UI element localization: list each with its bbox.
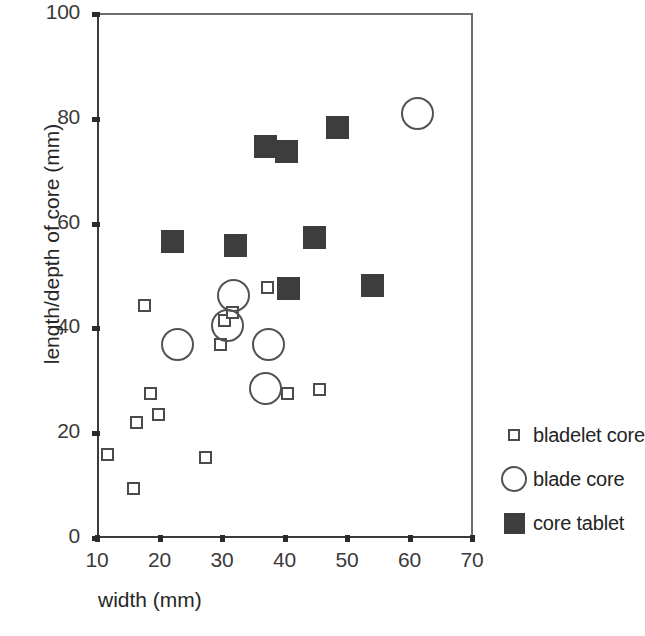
x-tick-label-50: 50 xyxy=(324,548,370,572)
legend-label: core tablet xyxy=(533,512,624,535)
x-tick-label-60: 60 xyxy=(387,548,433,572)
open-square-small-marker xyxy=(101,448,114,461)
x-tick-label-20: 20 xyxy=(137,548,183,572)
open-square-small-marker xyxy=(281,387,294,400)
y-tick-40 xyxy=(92,326,100,331)
x-tick-30 xyxy=(220,535,225,542)
x-tick-70 xyxy=(470,535,475,542)
open-square-small-icon xyxy=(508,429,520,441)
x-tick-label-40: 40 xyxy=(262,548,308,572)
x-tick-20 xyxy=(158,535,163,542)
open-square-small-marker xyxy=(313,383,326,396)
open-circle-marker xyxy=(217,279,250,312)
x-tick-60 xyxy=(408,535,413,542)
y-tick-100 xyxy=(92,12,100,17)
legend-key xyxy=(495,429,533,441)
filled-square-marker xyxy=(224,234,247,257)
open-circle-marker xyxy=(401,97,434,130)
open-square-small-marker xyxy=(130,416,143,429)
filled-square-marker xyxy=(277,277,300,300)
open-circle-marker xyxy=(252,328,285,361)
filled-square-icon xyxy=(504,513,525,534)
y-tick-80 xyxy=(92,117,100,122)
y-tick-label-0: 0 xyxy=(28,524,80,548)
legend-key xyxy=(495,466,533,492)
open-circle-marker xyxy=(161,328,194,361)
open-square-small-marker xyxy=(144,387,157,400)
x-tick-label-30: 30 xyxy=(199,548,245,572)
filled-square-marker xyxy=(161,230,184,253)
open-square-small-marker xyxy=(138,299,151,312)
open-circle-marker xyxy=(249,372,282,405)
filled-square-marker xyxy=(275,140,298,163)
open-square-small-marker xyxy=(127,482,140,495)
legend-item-bladelet-core: bladelet core xyxy=(495,418,645,452)
legend-label: bladelet core xyxy=(533,424,645,447)
y-tick-60 xyxy=(92,222,100,227)
legend-label: blade core xyxy=(533,468,624,491)
x-tick-10 xyxy=(95,535,100,542)
filled-square-marker xyxy=(303,226,326,249)
open-square-small-marker xyxy=(152,408,165,421)
filled-square-marker xyxy=(254,135,277,158)
y-tick-20 xyxy=(92,431,100,436)
open-circle-icon xyxy=(501,466,527,492)
y-axis-title: length/depth of core (mm) xyxy=(40,44,64,444)
open-circle-marker xyxy=(211,309,244,342)
filled-square-marker xyxy=(361,274,384,297)
x-axis-title: width (mm) xyxy=(98,588,202,612)
x-tick-label-70: 70 xyxy=(449,548,495,572)
legend-item-core-tablet: core tablet xyxy=(495,506,624,540)
filled-square-marker xyxy=(326,116,349,139)
x-tick-50 xyxy=(345,535,350,542)
x-tick-label-10: 10 xyxy=(74,548,120,572)
legend-item-blade-core: blade core xyxy=(495,462,624,496)
legend-key xyxy=(495,513,533,534)
y-tick-label-100: 100 xyxy=(28,0,80,24)
open-square-small-marker xyxy=(199,451,212,464)
x-tick-40 xyxy=(283,535,288,542)
open-square-small-marker xyxy=(261,281,274,294)
